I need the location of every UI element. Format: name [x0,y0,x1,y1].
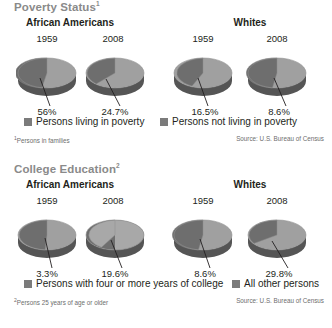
college-wh-year-2008: 2008 [252,195,302,206]
poverty-legend: Persons living in poverty Persons not li… [0,117,332,131]
college-group-whites: Whites [190,179,310,190]
college-pie-aa-1959-graphic [16,212,78,258]
poverty-legend-label-2: Persons not living in poverty [172,117,297,127]
college-pie-wh-2008 [246,212,308,256]
poverty-pie-aa-2008-graphic [84,50,146,96]
college-pie-wh-1959-graphic [172,212,234,258]
poverty-pie-wh-1959 [172,50,234,94]
poverty-aa-year-2008: 2008 [88,33,138,44]
college-legend-swatch-2 [232,280,240,288]
college-pie-wh-1959 [172,212,234,256]
poverty-legend-item-living-in-poverty: Persons living in poverty [24,117,144,127]
college-aa-year-2008: 2008 [88,195,138,206]
college-pie-wh-2008-graphic [246,212,308,258]
college-pie-aa-1959 [16,212,78,256]
college-pie-aa-2008-graphic [84,212,146,258]
poverty-legend-item-not-living-in-poverty: Persons not living in poverty [160,117,297,127]
college-footnote: 2Persons 25 years of age or older [14,297,108,306]
poverty-pie-wh-1959-graphic [172,50,234,96]
poverty-pie-aa-1959-graphic [16,50,78,96]
college-title-superscript: 2 [116,162,120,169]
poverty-source: Source: U.S. Bureau of Census [236,135,324,142]
college-education-section: College Education2 African Americans Whi… [0,162,332,328]
poverty-group-whites: Whites [190,17,310,28]
poverty-title-superscript: 1 [96,0,100,7]
poverty-section-title-text: Poverty Status [14,1,96,13]
college-pie-aa-2008 [84,212,146,256]
poverty-status-section: Poverty Status1 African Americans Whites… [0,0,332,148]
college-aa-year-1959: 1959 [22,195,72,206]
college-group-african-americans: African Americans [10,179,130,190]
poverty-wh-year-2008: 2008 [252,33,302,44]
college-source: Source: U.S. Bureau of Census [236,297,324,304]
college-legend-item-all-other-persons: All other persons [232,279,319,289]
college-section-title: College Education2 [14,162,120,175]
college-section-title-text: College Education [14,163,116,175]
college-legend-item-four-or-more-years: Persons with four or more years of colle… [24,279,223,289]
poverty-aa-year-1959: 1959 [22,33,72,44]
college-footnote-text: Persons 25 years of age or older [17,299,108,306]
poverty-pie-aa-2008 [84,50,146,94]
poverty-pie-wh-2008 [246,50,308,94]
poverty-section-title: Poverty Status1 [14,0,100,13]
poverty-legend-swatch-1 [24,118,32,126]
poverty-group-african-americans: African Americans [10,17,130,28]
college-legend-label-2: All other persons [244,279,319,289]
poverty-legend-label-1: Persons living in poverty [36,117,144,127]
poverty-legend-swatch-2 [160,118,168,126]
poverty-footnote: 1Persons in families [14,135,70,144]
college-legend-label-1: Persons with four or more years of colle… [36,279,223,289]
poverty-footnote-text: Persons in families [17,137,70,144]
poverty-pie-wh-2008-graphic [246,50,308,96]
college-legend: Persons with four or more years of colle… [0,279,332,293]
college-legend-swatch-1 [24,280,32,288]
poverty-wh-year-1959: 1959 [178,33,228,44]
poverty-pie-aa-1959 [16,50,78,94]
college-wh-year-1959: 1959 [178,195,228,206]
